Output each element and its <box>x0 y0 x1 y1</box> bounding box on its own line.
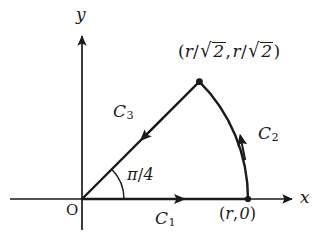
vertex-label-x-radicand: 2 <box>212 42 226 60</box>
vertex-label-y-radicand: 2 <box>260 42 274 60</box>
vertex-label-x-radical: √2 <box>199 42 225 61</box>
point-label-r0-variable: r <box>225 204 233 223</box>
point-label-r0: (r,0) <box>219 206 256 222</box>
vertex-label-comma: , <box>226 41 233 61</box>
point-label-r0-close-paren: ) <box>250 204 256 223</box>
vertex-label-x-variable: r <box>185 41 193 61</box>
x-axis-label: x <box>300 189 310 206</box>
point-marker-vertex <box>196 78 203 85</box>
point-marker-r0 <box>245 196 251 202</box>
curve-label-c2-letter: C <box>258 123 271 143</box>
contour-diagram: y x O C1 C2 C3 π/4 (r,0) (r/√2,r/√2) <box>0 0 319 234</box>
y-axis-label: y <box>76 6 86 23</box>
angle-label-pi: π <box>127 165 138 184</box>
curve-label-c3-subscript: 3 <box>127 109 134 122</box>
curve-label-c1: C1 <box>155 210 176 229</box>
vertex-label-close-paren: ) <box>273 41 280 61</box>
vertex-coordinate-label: (r/√2,r/√2) <box>178 42 280 61</box>
curve-label-c2-subscript: 2 <box>272 131 279 144</box>
path-c2 <box>199 82 248 199</box>
sqrt-icon: √ <box>248 42 259 62</box>
angle-label: π/4 <box>127 167 154 183</box>
curve-label-c3: C3 <box>113 103 134 122</box>
point-label-r0-comma: , <box>233 204 240 223</box>
diagram-canvas <box>0 0 319 234</box>
curve-label-c1-subscript: 1 <box>169 216 176 229</box>
point-label-r0-zero: 0 <box>240 204 250 223</box>
angle-arc-marker <box>112 169 124 199</box>
curve-label-c2: C2 <box>258 125 279 144</box>
vertex-label-y-variable: r <box>233 41 241 61</box>
origin-label: O <box>66 203 78 218</box>
curve-label-c3-letter: C <box>113 101 126 121</box>
angle-label-denominator: 4 <box>144 165 154 184</box>
vertex-label-open-paren: ( <box>178 41 185 61</box>
sqrt-icon: √ <box>200 42 211 62</box>
vertex-label-y-radical: √2 <box>247 42 273 61</box>
curve-label-c1-letter: C <box>155 208 168 228</box>
